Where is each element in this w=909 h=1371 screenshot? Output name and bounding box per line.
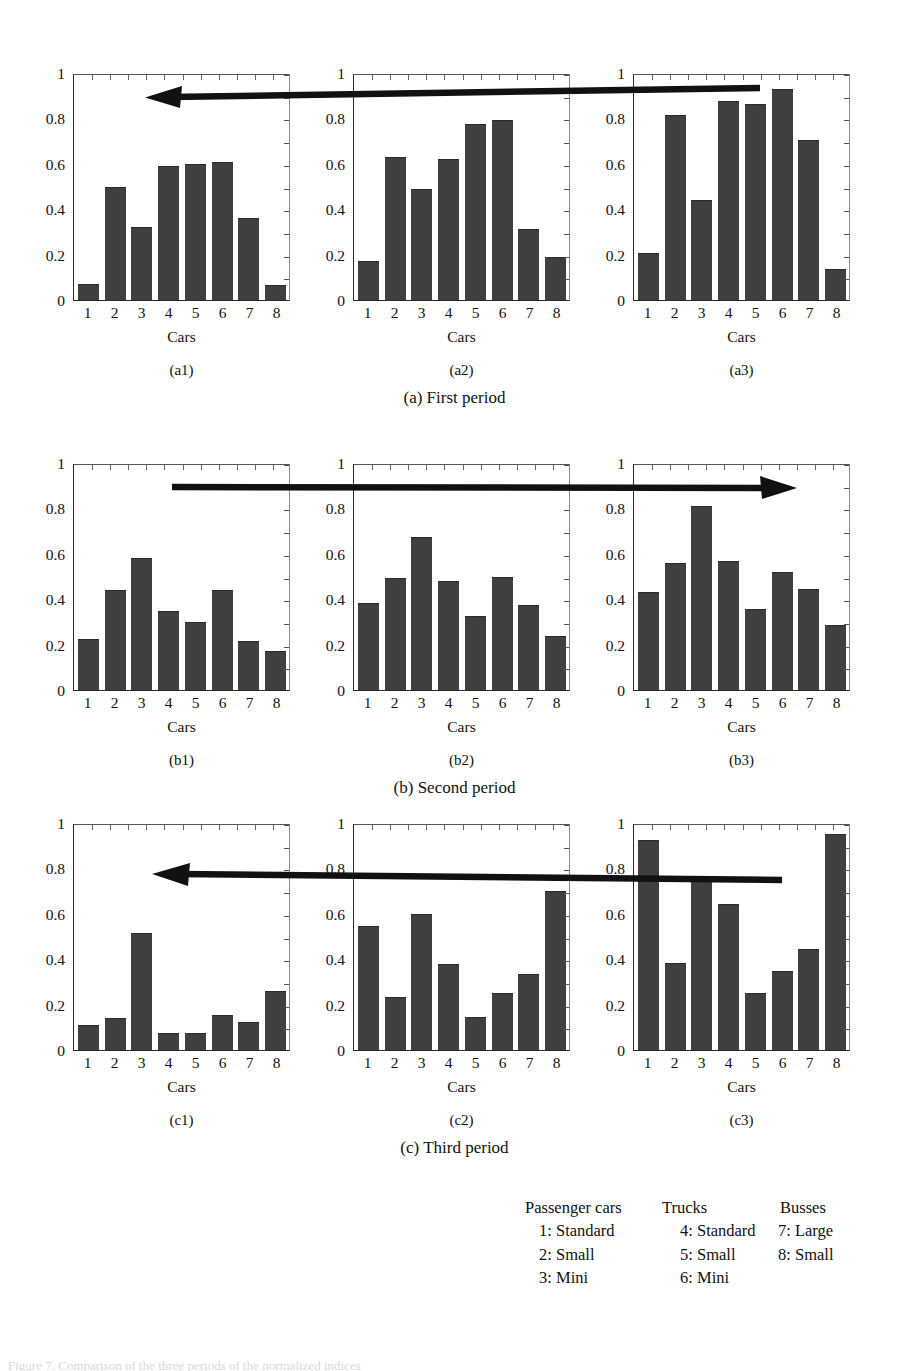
x-tick-top-a3-9 xyxy=(797,75,798,80)
y-tick-a2-3 xyxy=(564,143,569,144)
bar-b3-5 xyxy=(745,609,766,690)
y-axis-labels-a2: 00.20.40.60.81 xyxy=(308,74,349,301)
x-tick-top-a2-10 xyxy=(535,75,536,80)
x-tick-label-c1-5: 5 xyxy=(185,1055,206,1071)
y-axis-labels-b3: 00.20.40.60.81 xyxy=(588,464,629,691)
bar-c2-2 xyxy=(385,997,406,1050)
y-tick-label-b2-0: 0 xyxy=(337,683,345,699)
panel-caption-a1: (a1) xyxy=(73,362,290,379)
x-tick-label-c1-4: 4 xyxy=(158,1055,179,1071)
y-tick-label-a2-1: 1 xyxy=(337,66,345,82)
y-tick-label-a3-0.4: 0.4 xyxy=(606,202,625,218)
x-tick-top-c2-1 xyxy=(372,825,373,830)
y-tick-a1-7 xyxy=(284,234,289,235)
y-tick-label-b2-0.4: 0.4 xyxy=(326,592,345,608)
bar-c3-8 xyxy=(825,834,846,1050)
x-tick-label-c3-5: 5 xyxy=(745,1055,766,1071)
x-axis-title-a2: Cars xyxy=(353,328,570,346)
x-tick-top-c2-2 xyxy=(390,825,391,830)
row-caption-first-period: (a) First period xyxy=(0,388,909,408)
x-tick-label-a1-2: 2 xyxy=(104,305,125,321)
legend-item-3: 3: Mini xyxy=(525,1266,658,1289)
y-tick-b1-6 xyxy=(284,601,289,602)
bar-b1-8 xyxy=(265,651,286,690)
x-tick-top-b3-4 xyxy=(706,465,707,470)
x-tick-top-b2-4 xyxy=(426,465,427,470)
x-tick-label-a3-6: 6 xyxy=(772,305,793,321)
x-tick-top-c2-10 xyxy=(535,825,536,830)
x-tick-label-b1-4: 4 xyxy=(158,695,179,711)
chart-panel-b2: 00.20.40.60.81 12345678 Cars (b2) xyxy=(308,452,588,782)
bar-series-a2 xyxy=(354,75,569,300)
y-tick-c2-5 xyxy=(564,939,569,940)
x-tick-top-b3-8 xyxy=(779,465,780,470)
y-tick-a3-5 xyxy=(844,189,849,190)
x-tick-label-a2-3: 3 xyxy=(411,305,432,321)
legend-header-passenger-cars: Passenger cars xyxy=(525,1196,658,1219)
y-tick-c3-7 xyxy=(844,984,849,985)
x-tick-top-a1-9 xyxy=(237,75,238,80)
y-tick-label-c3-0: 0 xyxy=(617,1043,625,1059)
bar-a2-3 xyxy=(411,189,432,300)
y-tick-b2-0 xyxy=(564,465,569,466)
y-tick-label-b1-0: 0 xyxy=(57,683,65,699)
bar-a2-1 xyxy=(358,261,379,300)
y-tick-label-b3-0.6: 0.6 xyxy=(606,547,625,563)
y-tick-a1-0 xyxy=(284,75,289,76)
x-tick-top-a1-11 xyxy=(273,75,274,80)
y-tick-c1-2 xyxy=(284,870,289,871)
bar-c1-2 xyxy=(105,1018,126,1050)
x-axis-labels-b2: 12345678 xyxy=(353,695,570,711)
x-tick-label-b3-3: 3 xyxy=(691,695,712,711)
x-tick-top-b1-4 xyxy=(146,465,147,470)
legend-item-1: 1: Standard xyxy=(525,1219,658,1242)
y-tick-c1-4 xyxy=(284,916,289,917)
x-tick-top-c1-3 xyxy=(128,825,129,830)
y-tick-label-c2-0.6: 0.6 xyxy=(326,907,345,923)
y-tick-label-a3-1: 1 xyxy=(617,66,625,82)
x-tick-label-a1-6: 6 xyxy=(212,305,233,321)
y-tick-c1-1 xyxy=(284,848,289,849)
y-tick-c2-2 xyxy=(564,870,569,871)
x-tick-label-c2-2: 2 xyxy=(384,1055,405,1071)
bar-b3-7 xyxy=(798,589,819,690)
x-tick-top-c3-8 xyxy=(779,825,780,830)
x-tick-label-a3-4: 4 xyxy=(718,305,739,321)
x-tick-top-a1-1 xyxy=(92,75,93,80)
panel-caption-a2: (a2) xyxy=(353,362,570,379)
x-tick-top-c3-10 xyxy=(815,825,816,830)
legend-item-2: 2: Small xyxy=(525,1243,658,1266)
bar-a3-6 xyxy=(772,89,793,300)
x-tick-top-c1-9 xyxy=(237,825,238,830)
x-tick-label-a3-3: 3 xyxy=(691,305,712,321)
plot-area-b3 xyxy=(633,464,850,691)
bar-b2-7 xyxy=(518,605,539,690)
x-tick-top-a1-6 xyxy=(183,75,184,80)
x-tick-top-c1-4 xyxy=(146,825,147,830)
y-tick-b1-4 xyxy=(284,556,289,557)
x-tick-label-a1-1: 1 xyxy=(77,305,98,321)
x-tick-top-b2-2 xyxy=(390,465,391,470)
y-tick-label-a3-0.8: 0.8 xyxy=(606,112,625,128)
bar-a1-6 xyxy=(212,162,233,300)
y-tick-label-c2-0: 0 xyxy=(337,1043,345,1059)
y-tick-a3-4 xyxy=(844,166,849,167)
y-tick-a3-9 xyxy=(844,279,849,280)
x-tick-label-c3-1: 1 xyxy=(637,1055,658,1071)
x-tick-top-c2-5 xyxy=(444,825,445,830)
x-tick-top-a2-6 xyxy=(463,75,464,80)
plot-area-a2 xyxy=(353,74,570,301)
y-tick-label-b3-0.2: 0.2 xyxy=(606,638,625,654)
y-tick-c1-7 xyxy=(284,984,289,985)
bar-b1-1 xyxy=(78,639,99,690)
y-tick-b3-4 xyxy=(844,556,849,557)
bar-series-c2 xyxy=(354,825,569,1050)
y-axis-labels-c2: 00.20.40.60.81 xyxy=(308,824,349,1051)
x-tick-top-b1-7 xyxy=(201,465,202,470)
x-tick-label-b2-4: 4 xyxy=(438,695,459,711)
legend-header-busses: Busses xyxy=(770,1196,870,1219)
x-tick-top-a2-3 xyxy=(408,75,409,80)
x-tick-top-b2-7 xyxy=(481,465,482,470)
x-tick-top-b3-6 xyxy=(743,465,744,470)
x-tick-label-c3-2: 2 xyxy=(664,1055,685,1071)
